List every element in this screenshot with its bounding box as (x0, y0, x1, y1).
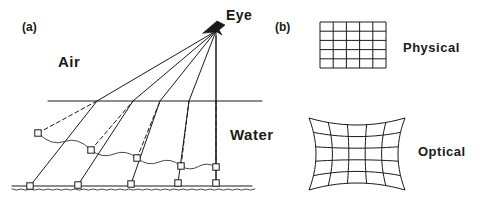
eye-label: Eye (226, 7, 252, 23)
panel-b-tag: (b) (275, 20, 290, 34)
real-object-markers (27, 180, 219, 189)
grid-line-vertical (328, 122, 332, 185)
grid-line-vertical (347, 125, 348, 184)
optical-grid-label: Optical (418, 144, 466, 159)
apparent-object-marker (178, 163, 184, 169)
panel-b-grids (309, 22, 405, 190)
grid-line-horizontal (309, 183, 405, 190)
grid-line-horizontal (313, 132, 400, 136)
panel-a-tag: (a) (22, 20, 37, 34)
apparent-object-markers (35, 130, 219, 170)
physical-grid (320, 22, 386, 68)
water-label: Water (230, 126, 274, 143)
air-label: Air (58, 53, 80, 70)
physical-grid-label: Physical (403, 40, 460, 55)
apparent-depth-curve (38, 133, 216, 169)
grid-line-vertical (365, 125, 366, 184)
refraction-figure (0, 0, 491, 202)
apparent-ray (91, 101, 133, 150)
apparent-ray (137, 101, 160, 158)
apparent-ray (38, 101, 97, 133)
real-ray (78, 31, 216, 185)
grid-line-vertical (398, 118, 405, 190)
grid-line-vertical (382, 122, 386, 185)
grid-line-vertical (309, 118, 316, 190)
apparent-object-marker (213, 164, 219, 170)
seabed-texture (12, 189, 255, 190)
real-ray (131, 31, 216, 184)
real-object-marker (75, 182, 81, 188)
real-object-marker (175, 180, 181, 186)
apparent-object-marker (134, 155, 140, 161)
grid-line-horizontal (316, 147, 399, 148)
real-object-marker (128, 181, 134, 187)
panel-a-diagram (12, 21, 262, 190)
grid-line-horizontal (309, 118, 405, 125)
real-object-marker (213, 180, 219, 186)
real-ray (178, 31, 216, 183)
grid-line-horizontal (316, 160, 399, 161)
real-object-marker (27, 183, 33, 189)
optical-grid (309, 118, 405, 190)
apparent-object-marker (88, 147, 94, 153)
grid-line-horizontal (313, 171, 400, 175)
apparent-object-marker (35, 130, 41, 136)
